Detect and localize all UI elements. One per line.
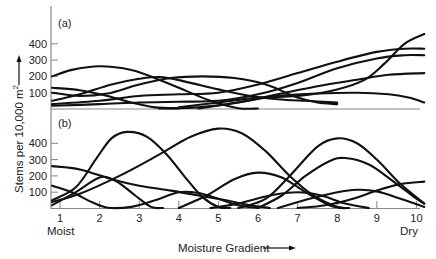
- x-tick-label: 5: [215, 212, 221, 224]
- y-axis-title: Stems per 10,000 m2: [11, 84, 25, 193]
- x-tick-label: 1: [57, 212, 63, 224]
- y-tick-label: 300: [29, 154, 47, 166]
- species-curve-b6: [179, 173, 345, 208]
- species-curve-a7: [159, 73, 424, 108]
- y-tick-label: 400: [29, 38, 47, 50]
- x-tick-label: 3: [136, 212, 142, 224]
- dry-label: Dry: [400, 225, 418, 237]
- y-tick-label: 200: [29, 170, 47, 182]
- panel-b-curves: [52, 129, 424, 209]
- moist-label: Moist: [47, 225, 75, 237]
- y-ticks: 100200300400100200300400: [29, 38, 58, 198]
- x-tick-label: 4: [176, 212, 182, 224]
- x-tick-label: 10: [410, 212, 422, 224]
- x-tick-label: 9: [374, 212, 380, 224]
- y-axis-title-group: Stems per 10,000 m2: [11, 55, 25, 193]
- x-axis-title: Moisture Gradient: [178, 242, 270, 254]
- panel-a-label: (a): [58, 17, 71, 29]
- panel-b-label: (b): [58, 117, 71, 129]
- y-tick-label: 200: [29, 70, 47, 82]
- panel-a-curves: [52, 34, 424, 109]
- x-ticks: 12345678910: [57, 201, 423, 224]
- y-tick-label: 100: [29, 87, 47, 99]
- y-tick-label: 400: [29, 137, 47, 149]
- x-axis-arrow-icon: [289, 246, 296, 251]
- y-tick-label: 100: [29, 186, 47, 198]
- x-tick-label: 2: [97, 212, 103, 224]
- x-tick-label: 6: [255, 212, 261, 224]
- species-curve-a8: [179, 34, 424, 107]
- species-curve-a6: [52, 55, 424, 106]
- x-tick-label: 7: [295, 212, 301, 224]
- y-axis-arrow-icon: [17, 55, 22, 62]
- x-tick-label: 8: [334, 212, 340, 224]
- y-tick-label: 300: [29, 54, 47, 66]
- ordination-chart: 100200300400100200300400 12345678910 (a)…: [0, 0, 436, 259]
